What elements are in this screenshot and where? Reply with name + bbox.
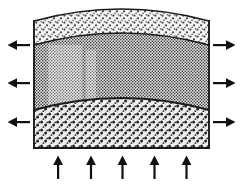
layered-block-diagram bbox=[0, 0, 243, 187]
layered-block bbox=[30, 0, 215, 154]
diagram-root bbox=[0, 0, 243, 187]
